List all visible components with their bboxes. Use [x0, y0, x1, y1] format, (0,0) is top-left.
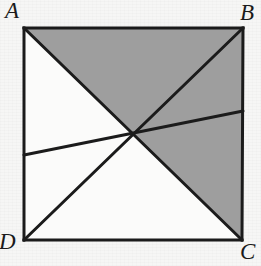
vertex-label-a: A — [5, 0, 19, 22]
side-BC-line — [242, 28, 243, 240]
geometry-figure: A B C D — [0, 0, 261, 266]
geometry-canvas — [0, 0, 261, 266]
vertex-label-c: C — [240, 240, 255, 263]
vertex-label-b: B — [240, 1, 254, 24]
vertex-label-d: D — [0, 230, 16, 253]
